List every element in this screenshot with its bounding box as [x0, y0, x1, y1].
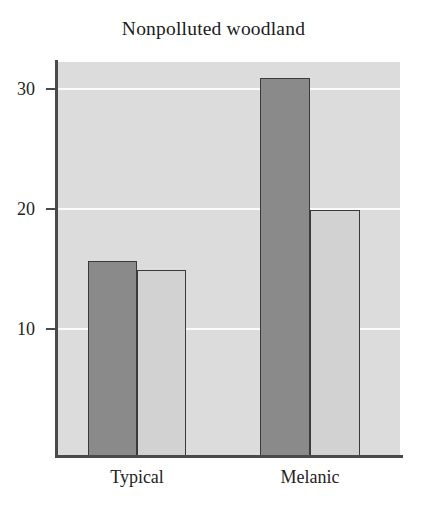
- bar-typical-dark: [88, 261, 137, 456]
- x-axis-line: [55, 455, 403, 458]
- y-axis-line: [55, 60, 58, 458]
- y-tick-mark-20: [46, 208, 58, 210]
- bar-melanic-dark: [260, 78, 310, 456]
- y-tick-mark-10: [46, 328, 58, 330]
- category-label-typical: Typical: [67, 466, 207, 488]
- y-tick-label-30: 30: [0, 80, 35, 98]
- chart-title: Nonpolluted woodland: [0, 17, 427, 41]
- plot-area: [58, 62, 400, 456]
- gridline-30: [58, 88, 400, 90]
- category-label-melanic: Melanic: [240, 466, 380, 488]
- y-tick-label-10: 10: [0, 320, 35, 338]
- chart-figure: Nonpolluted woodland 30 20 10 Typical Me…: [0, 0, 427, 510]
- y-tick-mark-30: [46, 88, 58, 90]
- bar-melanic-light: [310, 210, 360, 456]
- y-tick-label-20: 20: [0, 200, 35, 218]
- bar-typical-light: [137, 270, 186, 456]
